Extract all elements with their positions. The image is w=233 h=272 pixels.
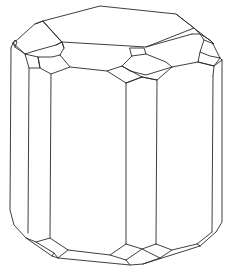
bottom-left-small [36, 242, 58, 258]
top-face [43, 6, 194, 47]
center-rhomb-bottom [126, 77, 157, 83]
left-rhomb-upper [25, 42, 64, 57]
edge-left-front [50, 74, 51, 238]
upper-ridge [62, 42, 64, 48]
center-facet-links [122, 54, 172, 67]
top-left-facet [13, 21, 62, 54]
edge-left-inner [28, 68, 29, 233]
bottom-right-band [172, 232, 216, 250]
top-left-facet-ridge [35, 21, 43, 24]
bottom-left-band [26, 238, 126, 255]
edge-center-right [156, 80, 157, 244]
right-top-link [146, 34, 192, 47]
crystal-edges [10, 6, 222, 265]
center-small-facet [130, 48, 146, 56]
edge-right-front [212, 76, 213, 232]
center-rhomb [107, 66, 172, 83]
left-rhomb-edge [13, 43, 25, 54]
right-rhomb-low [198, 60, 222, 76]
bottom-center-rhomb [110, 244, 172, 265]
left-rhomb-low [38, 55, 70, 74]
edge-right-outline [216, 60, 222, 232]
crystal-drawing [0, 0, 233, 272]
edge-left-outline [10, 43, 26, 238]
